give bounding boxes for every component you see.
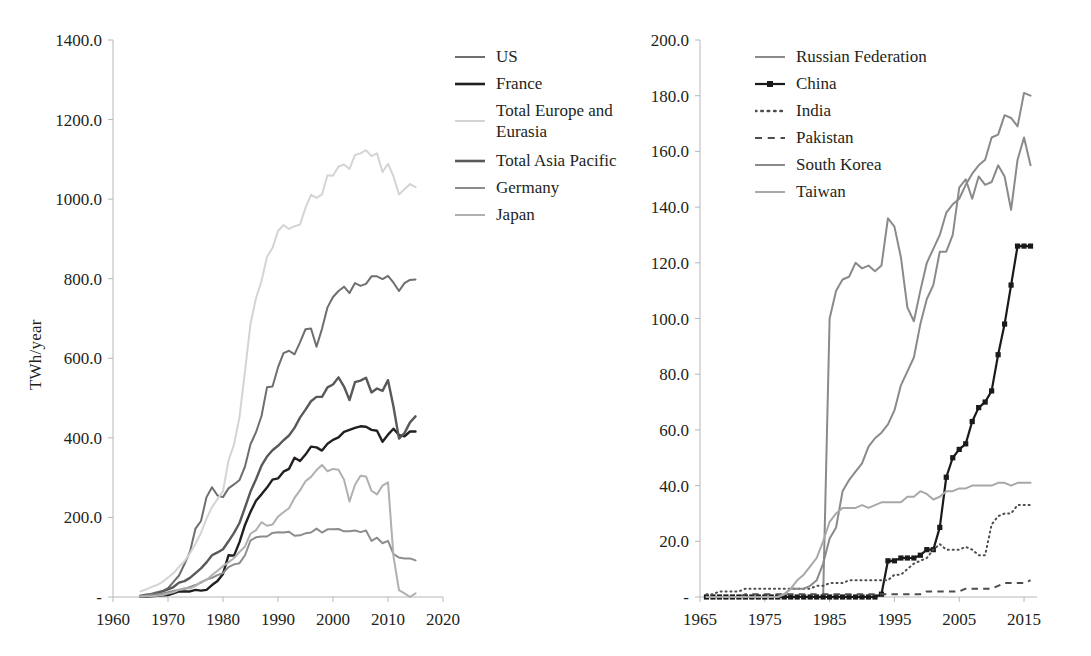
legend-item-label: India (796, 100, 831, 121)
series-line (706, 483, 1030, 597)
series-marker (905, 555, 910, 560)
x-tick-label: 1990 (261, 610, 295, 629)
legend-item[interactable]: US (455, 46, 635, 67)
legend-line-swatch (455, 181, 485, 195)
legend-line-swatch (455, 154, 485, 168)
series-line (706, 246, 1030, 597)
series-marker (963, 441, 968, 446)
series-marker (1015, 243, 1020, 248)
legend-line-swatch (755, 104, 785, 118)
chart-page: TWh/year -200.0400.0600.0800.01000.01200… (0, 0, 1091, 656)
legend-item-label: France (496, 73, 542, 94)
y-tick-label: 400.0 (64, 429, 102, 448)
legend-item[interactable]: India (755, 100, 985, 121)
legend-item[interactable]: Russian Federation (755, 46, 985, 67)
series-marker (918, 553, 923, 558)
legend-item-label: Taiwan (796, 181, 846, 202)
legend-item[interactable]: Total Europe and Eurasia (455, 100, 635, 142)
right-chart-panel: -20.040.060.080.0100.0120.0140.0160.0180… (640, 0, 1091, 656)
legend-item-label: Pakistan (796, 127, 854, 148)
legend-line-swatch (455, 114, 485, 128)
legend-line-swatch (455, 208, 485, 222)
legend-line-swatch (755, 131, 785, 145)
y-tick-label: 120.0 (651, 254, 689, 273)
series-marker (970, 419, 975, 424)
series-marker (996, 352, 1001, 357)
legend-item[interactable]: China (755, 73, 985, 94)
x-tick-label: 2000 (316, 610, 350, 629)
y-tick-label: 200.0 (64, 508, 102, 527)
left-chart-panel: TWh/year -200.0400.0600.0800.01000.01200… (0, 0, 640, 656)
legend-item-label: Japan (496, 204, 535, 225)
legend-item[interactable]: Taiwan (755, 181, 985, 202)
x-tick-label: 2005 (942, 610, 976, 629)
series-marker (1002, 321, 1007, 326)
legend-marker (767, 81, 773, 87)
legend-line-swatch (755, 50, 785, 64)
legend-item-label: Total Asia Pacific (496, 150, 617, 171)
series-line (141, 276, 416, 595)
y-tick-label: 40.0 (659, 477, 689, 496)
legend-line-swatch (455, 77, 485, 91)
series-marker (885, 558, 890, 563)
legend-item-label: South Korea (796, 154, 881, 175)
y-tick-label: 180.0 (651, 87, 689, 106)
series-line (141, 465, 416, 597)
y-tick-label: 600.0 (64, 349, 102, 368)
legend-item-label: Total Europe and Eurasia (496, 100, 613, 142)
legend-line-swatch (755, 158, 785, 172)
legend-item-label: China (796, 73, 837, 94)
series-marker (983, 399, 988, 404)
y-tick-label: 100.0 (651, 310, 689, 329)
left-y-axis-label: TWh/year (26, 319, 46, 390)
series-marker (1021, 243, 1026, 248)
y-tick-label: 800.0 (64, 270, 102, 289)
x-tick-label: 1970 (151, 610, 185, 629)
series-marker (898, 555, 903, 560)
series-marker (1008, 282, 1013, 287)
y-tick-label: 160.0 (651, 142, 689, 161)
series-marker (944, 475, 949, 480)
x-tick-label: 2020 (426, 610, 460, 629)
x-tick-label: 1960 (96, 610, 130, 629)
y-tick-label: - (96, 588, 102, 607)
series-marker (937, 525, 942, 530)
y-tick-label: 60.0 (659, 421, 689, 440)
y-tick-label: 140.0 (651, 198, 689, 217)
x-tick-label: 1965 (683, 610, 717, 629)
y-tick-label: 80.0 (659, 365, 689, 384)
legend-item[interactable]: Total Asia Pacific (455, 150, 635, 171)
legend-item[interactable]: Germany (455, 177, 635, 198)
x-tick-label: 2010 (371, 610, 405, 629)
y-tick-label: 1000.0 (55, 190, 102, 209)
y-tick-label: 200.0 (651, 31, 689, 50)
legend-line-swatch (455, 50, 485, 64)
legend-line-swatch (755, 185, 785, 199)
y-tick-label: 1400.0 (55, 31, 102, 50)
series-marker (840, 594, 845, 599)
series-marker (911, 555, 916, 560)
series-marker (989, 388, 994, 393)
x-tick-label: 2015 (1007, 610, 1041, 629)
legend-item[interactable]: Japan (455, 204, 635, 225)
series-marker (976, 405, 981, 410)
y-tick-label: 20.0 (659, 532, 689, 551)
series-line (141, 529, 416, 597)
legend-item[interactable]: France (455, 73, 635, 94)
legend-item-label: Germany (496, 177, 559, 198)
x-tick-label: 1980 (206, 610, 240, 629)
y-tick-label: 1200.0 (55, 111, 102, 130)
x-tick-label: 1995 (877, 610, 911, 629)
legend-line-swatch (755, 77, 785, 91)
right-legend: Russian FederationChinaIndiaPakistanSout… (755, 46, 985, 208)
legend-item[interactable]: Pakistan (755, 127, 985, 148)
legend-item[interactable]: South Korea (755, 154, 985, 175)
series-marker (892, 558, 897, 563)
x-tick-label: 1985 (813, 610, 847, 629)
legend-item-label: Russian Federation (796, 46, 927, 67)
series-marker (950, 455, 955, 460)
series-line (706, 505, 1030, 594)
left-legend: USFranceTotal Europe and EurasiaTotal As… (455, 46, 635, 231)
series-marker (957, 447, 962, 452)
y-tick-label: - (683, 588, 689, 607)
